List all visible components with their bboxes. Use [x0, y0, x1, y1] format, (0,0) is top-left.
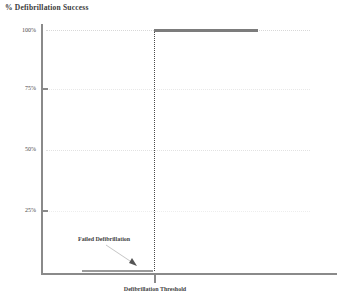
y-tick-label-50-wrap: 50%	[0, 146, 36, 154]
x-axis-line	[41, 273, 337, 275]
x-axis-threshold-tick	[154, 275, 156, 283]
y-tick-label-25: 25%	[25, 207, 36, 213]
y-tick-label-100-wrap: 100%	[0, 27, 36, 35]
y-tick-label-100: 100%	[22, 27, 36, 33]
x-axis-label: Defibrillation Threshold	[124, 286, 186, 292]
series-successful-defibrillation-segment	[154, 29, 258, 32]
gridline-75	[46, 89, 310, 90]
gridline-25	[46, 211, 310, 212]
y-tick-label-75-wrap: 75%	[0, 85, 36, 93]
annotation-leader-arrow	[104, 243, 152, 271]
y-tick-label-75: 75%	[25, 85, 36, 91]
defibrillation-success-chart: % Defibrillation Success 100% 75% 50% 25…	[0, 0, 350, 304]
y-axis-line	[41, 24, 43, 275]
y-tick-mark-25	[41, 210, 48, 212]
series-failed-defibrillation-segment	[82, 270, 153, 272]
chart-title: % Defibrillation Success	[5, 3, 89, 12]
annotation-failed-defibrillation: Failed Defibrillation	[78, 236, 130, 242]
y-tick-label-25-wrap: 25%	[0, 207, 36, 215]
y-tick-mark-75	[41, 88, 48, 90]
y-tick-label-50: 50%	[25, 146, 36, 152]
series-threshold-transition	[154, 30, 155, 271]
gridline-50	[46, 150, 310, 151]
